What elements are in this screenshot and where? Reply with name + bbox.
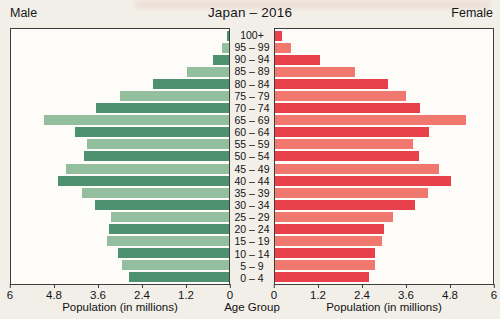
female-bar-45-49 bbox=[275, 164, 439, 174]
pyramid-row-25-29 bbox=[11, 211, 229, 223]
tick-label: 2.4 bbox=[354, 289, 370, 301]
female-axis-label: Population (in millions) bbox=[326, 301, 442, 313]
male-bar-20-24 bbox=[109, 224, 229, 234]
pyramid-row-25-29 bbox=[275, 211, 493, 223]
tick-mark bbox=[274, 284, 275, 288]
pyramid-row-75-79 bbox=[275, 90, 493, 102]
pyramid-row-50-54 bbox=[11, 150, 229, 162]
age-label-10-14: 10 – 14 bbox=[230, 248, 274, 260]
female-bar-80-84 bbox=[275, 79, 388, 89]
female-bar-70-74 bbox=[275, 103, 420, 113]
tick-label: 1.2 bbox=[178, 289, 194, 301]
age-label-35-39: 35 – 39 bbox=[230, 187, 274, 199]
female-bar-60-64 bbox=[275, 127, 429, 137]
male-bar-80-84 bbox=[153, 79, 229, 89]
tick-label: 6 bbox=[7, 289, 13, 301]
tick-mark bbox=[10, 284, 11, 288]
pyramid-row-75-79 bbox=[11, 90, 229, 102]
axis-tick-left-0: 0 bbox=[227, 284, 233, 301]
female-bar-5-9 bbox=[275, 260, 375, 270]
age-label-20-24: 20 – 24 bbox=[230, 223, 274, 235]
female-bar-95-99 bbox=[275, 43, 291, 53]
tick-label: 1.2 bbox=[310, 289, 326, 301]
tick-label: 3.6 bbox=[90, 289, 106, 301]
female-bar-90-94 bbox=[275, 55, 320, 65]
pyramid-row-40-44 bbox=[11, 175, 229, 187]
female-bar-65-69 bbox=[275, 115, 466, 125]
pyramid-row-45-49 bbox=[275, 163, 493, 175]
female-bar-55-59 bbox=[275, 139, 413, 149]
female-bar-40-44 bbox=[275, 176, 451, 186]
male-bar-65-69 bbox=[44, 115, 229, 125]
female-bar-15-19 bbox=[275, 236, 382, 246]
pyramid-row-65-69 bbox=[11, 114, 229, 126]
pyramid-row-65-69 bbox=[275, 114, 493, 126]
tick-mark bbox=[142, 284, 143, 288]
female-bar-25-29 bbox=[275, 212, 393, 222]
pyramid-row-90-94 bbox=[275, 54, 493, 66]
tick-mark bbox=[494, 284, 495, 288]
pyramid-row-100plus bbox=[11, 30, 229, 42]
age-label-15-19: 15 – 19 bbox=[230, 235, 274, 247]
pyramid-row-100plus bbox=[275, 30, 493, 42]
male-bars-area bbox=[11, 29, 229, 284]
pyramid-row-20-24 bbox=[275, 223, 493, 235]
center-axis-label: Age Group bbox=[224, 301, 280, 313]
male-bar-95-99 bbox=[222, 43, 229, 53]
tick-label: 4.8 bbox=[442, 289, 458, 301]
male-bar-90-94 bbox=[213, 55, 229, 65]
tick-label: 6 bbox=[491, 289, 497, 301]
tick-label: 3.6 bbox=[398, 289, 414, 301]
age-label-55-59: 55 – 59 bbox=[230, 138, 274, 150]
male-axis-ticks: 64.83.62.41.20 bbox=[10, 284, 230, 302]
pyramid-row-10-14 bbox=[275, 247, 493, 259]
male-bar-50-54 bbox=[84, 151, 229, 161]
pyramid-row-0-4 bbox=[11, 271, 229, 283]
population-pyramid-figure: Japan – 2016 Male Female 100+95 – 9990 –… bbox=[0, 0, 500, 319]
male-bar-35-39 bbox=[82, 188, 229, 198]
chart-title: Japan – 2016 bbox=[0, 5, 500, 20]
male-bar-100plus bbox=[227, 31, 229, 41]
pyramid-row-40-44 bbox=[275, 175, 493, 187]
axis-tick-right-0: 0 bbox=[271, 284, 277, 301]
pyramid-row-60-64 bbox=[11, 126, 229, 138]
male-bar-85-89 bbox=[187, 67, 229, 77]
pyramid-row-5-9 bbox=[275, 259, 493, 271]
pyramid-row-30-34 bbox=[11, 199, 229, 211]
tick-mark bbox=[318, 284, 319, 288]
female-bar-10-14 bbox=[275, 248, 375, 258]
age-label-60-64: 60 – 64 bbox=[230, 126, 274, 138]
pyramid-row-15-19 bbox=[11, 235, 229, 247]
tick-label: 0 bbox=[227, 289, 233, 301]
pyramid-row-35-39 bbox=[275, 187, 493, 199]
female-bar-35-39 bbox=[275, 188, 428, 198]
age-label-90-94: 90 – 94 bbox=[230, 53, 274, 65]
age-label-0-4: 0 – 4 bbox=[230, 272, 274, 284]
male-side-header: Male bbox=[10, 6, 37, 20]
tick-label: 2.4 bbox=[134, 289, 150, 301]
male-bar-75-79 bbox=[120, 91, 229, 101]
pyramid-row-60-64 bbox=[275, 126, 493, 138]
pyramid-row-80-84 bbox=[11, 78, 229, 90]
tick-mark bbox=[362, 284, 363, 288]
age-label-75-79: 75 – 79 bbox=[230, 90, 274, 102]
male-bar-10-14 bbox=[118, 248, 229, 258]
pyramid-row-45-49 bbox=[11, 163, 229, 175]
pyramid-row-95-99 bbox=[275, 42, 493, 54]
tick-mark bbox=[406, 284, 407, 288]
pyramid-row-70-74 bbox=[275, 102, 493, 114]
female-panel bbox=[274, 28, 494, 285]
pyramid-row-0-4 bbox=[275, 271, 493, 283]
pyramid-row-20-24 bbox=[11, 223, 229, 235]
male-bar-0-4 bbox=[129, 272, 229, 282]
male-bar-25-29 bbox=[111, 212, 229, 222]
age-label-100plus: 100+ bbox=[230, 29, 274, 41]
female-bar-85-89 bbox=[275, 67, 355, 77]
female-side-header: Female bbox=[451, 6, 493, 20]
age-label-95-99: 95 – 99 bbox=[230, 41, 274, 53]
male-bar-30-34 bbox=[95, 200, 229, 210]
male-panel bbox=[10, 28, 230, 285]
tick-label: 4.8 bbox=[46, 289, 62, 301]
age-group-column: 100+95 – 9990 – 9485 – 8980 – 8475 – 797… bbox=[230, 28, 274, 285]
tick-label: 0 bbox=[271, 289, 277, 301]
